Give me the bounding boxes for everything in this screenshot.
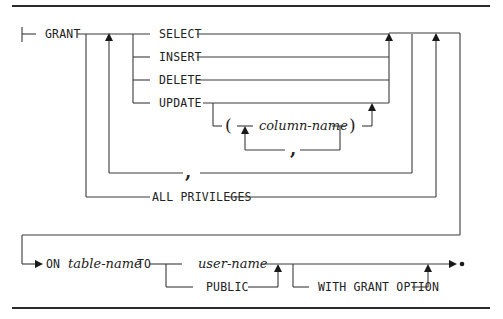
arrow-up-icon xyxy=(368,103,376,111)
keyword-public: PUBLIC xyxy=(206,280,249,294)
arrow-up-icon xyxy=(241,126,249,134)
arrow-up-icon xyxy=(274,264,282,272)
arrow-right-icon xyxy=(449,260,457,268)
keyword-insert: INSERT xyxy=(159,50,202,64)
arrow-up-icon xyxy=(424,264,432,272)
keyword-select: SELECT xyxy=(159,27,202,41)
column-separator-comma: , xyxy=(290,138,296,159)
keyword-grant: GRANT xyxy=(45,27,81,41)
grant-syntax-diagram: GRANT ALL PRIVILEGES , SELECT INSERT DEL… xyxy=(0,0,503,319)
close-paren: ) xyxy=(349,115,356,135)
keyword-on: ON xyxy=(46,257,60,271)
variable-user-name: user-name xyxy=(198,256,268,271)
privilege-separator-comma: , xyxy=(185,161,191,182)
arrow-right-icon xyxy=(35,260,43,268)
keyword-update: UPDATE xyxy=(159,96,202,110)
variable-table-name: table-name xyxy=(68,256,142,271)
end-dot-icon xyxy=(460,262,465,267)
keyword-delete: DELETE xyxy=(159,73,202,87)
open-paren: ( xyxy=(225,115,232,135)
arrow-up-icon xyxy=(432,33,440,41)
keyword-to: TO xyxy=(137,257,151,271)
